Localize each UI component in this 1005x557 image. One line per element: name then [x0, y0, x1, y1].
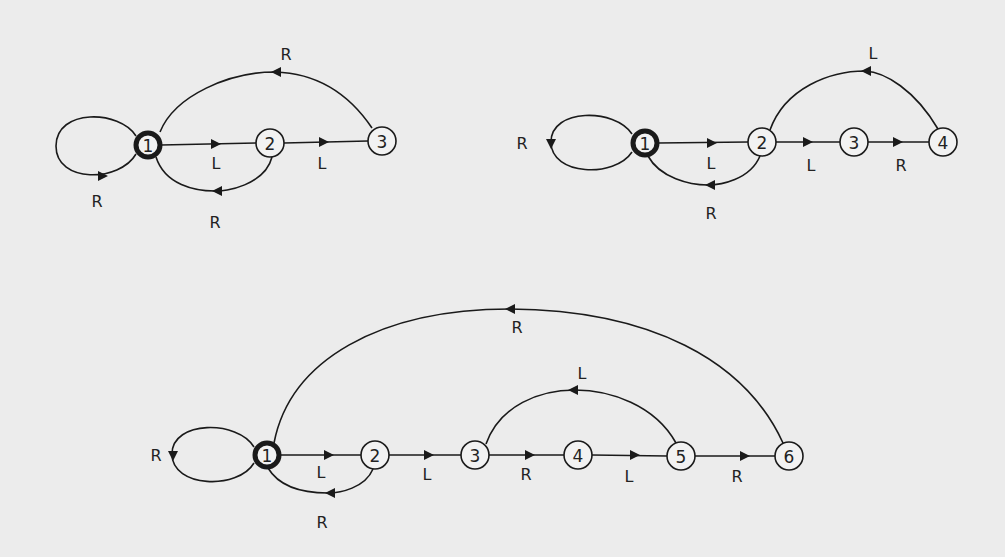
arrow-icon	[705, 180, 715, 190]
node-label: 2	[757, 133, 768, 153]
edge-label-b-4-2: L	[869, 44, 878, 63]
edge-label-b-1-2: L	[707, 154, 716, 173]
edge-b-1-2	[658, 142, 748, 143]
node-label: 1	[143, 136, 154, 156]
edge-label-c-1-2: L	[317, 463, 326, 482]
graph-b: R L L R R L 1 2 3 4	[516, 44, 957, 223]
graph-c: R L L R L R R L R 1	[150, 304, 803, 532]
node-label: 1	[640, 134, 651, 154]
arrow-icon	[740, 451, 750, 461]
arrow-icon	[505, 304, 515, 314]
edge-label-c-4-5: L	[625, 467, 634, 486]
edge-label-b-3-4: R	[895, 156, 906, 175]
arrow-icon	[707, 138, 717, 148]
edge-label-c-2-3: L	[423, 465, 432, 484]
edge-label-b-2-1: R	[705, 204, 716, 223]
edge-c-1-1-loop	[172, 428, 254, 482]
edge-label-c-3-4: R	[520, 465, 531, 484]
edge-label-a-3-1: R	[280, 45, 291, 64]
arrow-icon	[630, 450, 640, 460]
edge-label-c-5-6: R	[731, 467, 742, 486]
node-label: 3	[849, 133, 860, 153]
edge-label-b-2-3: L	[807, 156, 816, 175]
edge-c-4-5	[592, 455, 667, 456]
graph-a: R L L R R 1 2 3	[56, 45, 396, 232]
node-label: 1	[262, 446, 273, 466]
edge-a-1-1-loop	[56, 117, 136, 175]
arrow-icon	[319, 137, 329, 147]
node-label: 3	[377, 132, 388, 152]
arrow-icon	[568, 385, 578, 395]
diagram-canvas: R L L R R 1 2 3 R L	[0, 0, 1005, 557]
edge-label-a-2-1: R	[209, 213, 220, 232]
edge-a-1-2	[161, 143, 256, 145]
arrow-icon	[324, 450, 334, 460]
edge-a-3-1-arc	[160, 72, 372, 132]
arrow-icon	[325, 488, 335, 498]
node-label: 4	[938, 133, 949, 153]
edge-label-c-6-1: R	[511, 318, 522, 337]
node-label: 6	[784, 447, 795, 467]
edge-label-a-loop: R	[91, 192, 102, 211]
edge-label-b-loop: R	[516, 134, 527, 153]
node-label: 2	[370, 446, 381, 466]
arrow-icon	[168, 451, 178, 461]
arrow-icon	[212, 186, 222, 196]
arrow-icon	[424, 450, 434, 460]
edge-c-6-1-arc	[274, 309, 783, 443]
edge-label-c-2-1: R	[316, 513, 327, 532]
node-label: 4	[573, 446, 584, 466]
arrow-icon	[271, 67, 281, 77]
edge-b-1-1-loop	[551, 115, 632, 169]
arrow-icon	[861, 66, 871, 76]
edge-b-2-1-arc	[648, 156, 760, 185]
arrow-icon	[546, 139, 556, 149]
arrow-icon	[211, 139, 221, 149]
edge-label-c-5-3: L	[578, 364, 587, 383]
edge-b-4-2-arc	[770, 71, 938, 130]
edge-c-5-3-arc	[486, 390, 676, 444]
edge-label-a-1-2: L	[212, 154, 221, 173]
arrow-icon	[803, 137, 813, 147]
arrow-icon	[893, 137, 903, 147]
node-label: 5	[676, 447, 687, 467]
edge-label-a-2-3: L	[318, 154, 327, 173]
node-label: 3	[470, 446, 481, 466]
node-label: 2	[265, 134, 276, 154]
edge-label-c-loop: R	[150, 446, 161, 465]
arrow-icon	[525, 450, 535, 460]
